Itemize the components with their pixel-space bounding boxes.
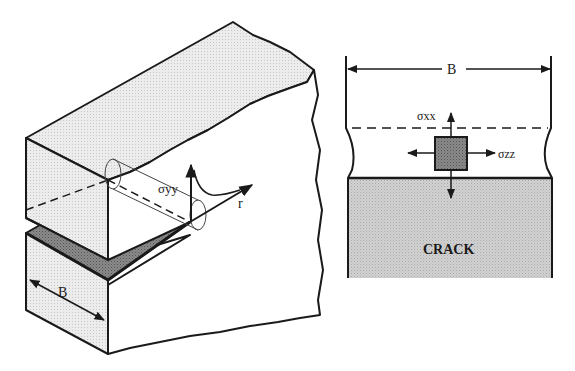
sigma-zz-label: σzz: [498, 147, 515, 161]
r-label: r: [238, 196, 243, 211]
crack-label: CRACK: [423, 242, 474, 257]
diagram-canvas: σyy r B B σxx σzz CRACK: [0, 0, 575, 371]
sigma-xx-label: σxx: [417, 109, 435, 123]
thickness-label-left: B: [58, 285, 67, 300]
sigma-yy-label: σyy: [158, 181, 179, 196]
thickness-label-right: B: [447, 62, 456, 77]
stress-element: [435, 137, 467, 170]
